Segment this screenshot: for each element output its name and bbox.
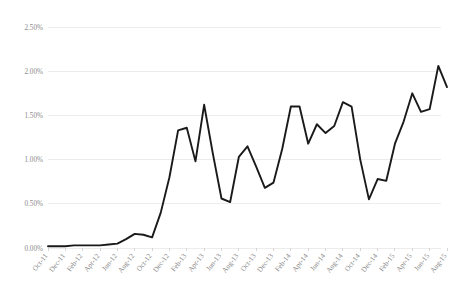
x-axis-tick-label: Aug-14 xyxy=(325,252,345,275)
data-series-line xyxy=(48,66,447,246)
x-axis-tick-label: Oct-11 xyxy=(31,252,50,273)
x-axis-tick-label: Apr-12 xyxy=(83,252,102,273)
y-axis-tick-label: 2.00% xyxy=(24,68,43,76)
gridlines xyxy=(48,27,441,248)
x-axis-tick-label: Oct-12 xyxy=(135,252,154,273)
y-axis-tick-label: 1.50% xyxy=(24,112,43,120)
x-axis-tick-label: Dec-13 xyxy=(256,252,276,274)
x-axis-tick-label: Dec-11 xyxy=(48,252,67,274)
x-axis-tick-label: Feb-12 xyxy=(65,252,84,273)
y-axis-tick-label: 0.50% xyxy=(24,200,43,208)
x-axis-tick-label: Dec-14 xyxy=(360,252,380,274)
x-axis-tick-label: Feb-15 xyxy=(378,252,397,273)
x-axis-tick-label: Dec-12 xyxy=(152,252,172,274)
x-axis-labels: Oct-11Dec-11Feb-12Apr-12Jun-12Aug-12Oct-… xyxy=(31,252,449,275)
x-axis-tick-label: Feb-14 xyxy=(274,252,293,273)
y-axis-tick-label: 2.50% xyxy=(24,24,43,32)
x-axis-tick-label: Oct-14 xyxy=(343,252,362,273)
x-axis-tick-label: Apr-14 xyxy=(291,252,310,273)
x-axis-tick-label: Aug-13 xyxy=(221,252,241,275)
x-axis-tick-label: Feb-13 xyxy=(170,252,189,273)
x-axis-tick-label: Aug-12 xyxy=(116,252,136,275)
y-axis-labels: 0.00%0.50%1.00%1.50%2.00%2.50% xyxy=(24,24,43,253)
x-axis-tick-label: Oct-13 xyxy=(239,252,258,273)
x-axis-tick-label: Apr-15 xyxy=(395,252,414,273)
y-axis-tick-label: 0.00% xyxy=(24,245,43,253)
x-axis-tick-label: Apr-13 xyxy=(187,252,206,273)
line-chart: 0.00%0.50%1.00%1.50%2.00%2.50% Oct-11Dec… xyxy=(0,0,454,294)
chart-canvas: 0.00%0.50%1.00%1.50%2.00%2.50% Oct-11Dec… xyxy=(0,0,454,294)
y-axis-tick-label: 1.00% xyxy=(24,156,43,164)
x-axis-tick-label: Aug-15 xyxy=(429,252,449,275)
